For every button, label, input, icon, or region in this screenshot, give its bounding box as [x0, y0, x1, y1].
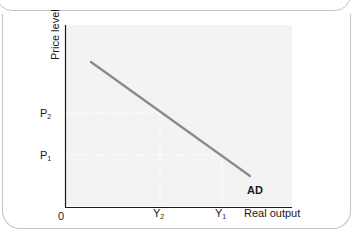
tick-y2-sub: 2: [160, 213, 164, 220]
tick-p2-main: P: [40, 107, 47, 119]
tick-p2: P2: [40, 107, 51, 120]
ad-chart: Price level P2 P1 0 Y2 Y1 Real output AD: [0, 0, 353, 235]
tick-p1-main: P: [40, 149, 47, 161]
tick-p1-sub: 1: [47, 155, 51, 162]
tick-p1: P1: [40, 149, 51, 162]
tick-p2-sub: 2: [47, 113, 51, 120]
origin-label: 0: [58, 210, 64, 222]
x-axis-label: Real output: [244, 207, 300, 219]
tick-y1: Y1: [215, 207, 226, 220]
tick-y2: Y2: [153, 207, 164, 220]
tick-y1-sub: 1: [222, 213, 226, 220]
y-axis-label: Price level: [49, 9, 61, 60]
plot-area: [66, 25, 292, 206]
ad-label: AD: [247, 184, 263, 196]
